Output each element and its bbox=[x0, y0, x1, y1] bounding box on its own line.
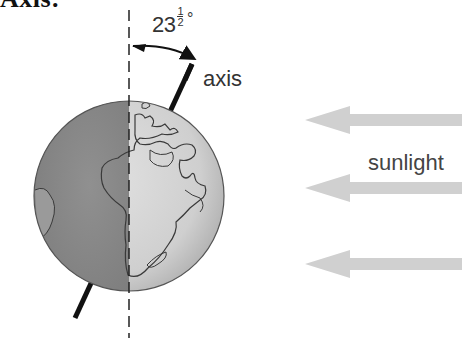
sunlight-arrow-icon bbox=[305, 106, 462, 134]
fraction-denominator: 2 bbox=[177, 17, 183, 27]
sunlight-label: sunlight bbox=[368, 150, 444, 176]
tilt-angle-label: 2312° bbox=[152, 6, 193, 38]
degree-symbol: ° bbox=[187, 10, 193, 27]
sunlight-arrows bbox=[305, 106, 462, 278]
earth-globe bbox=[30, 95, 224, 295]
tilt-angle-fraction: 12 bbox=[177, 6, 183, 27]
axis-label: axis bbox=[203, 66, 242, 92]
sunlight-arrow-icon bbox=[305, 250, 462, 278]
tilt-angle-whole: 23 bbox=[152, 12, 175, 37]
sunlight-arrow-icon bbox=[305, 174, 462, 202]
